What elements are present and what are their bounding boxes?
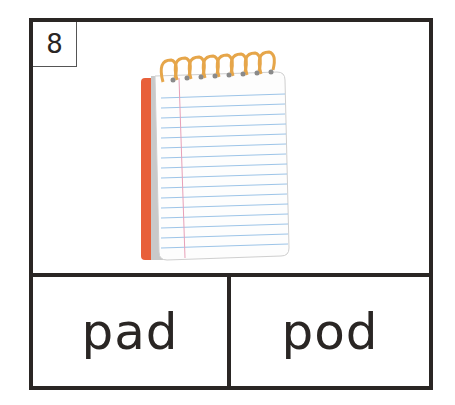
choice-pod[interactable]: pod — [231, 277, 429, 386]
choice-pad[interactable]: pad — [33, 277, 227, 386]
card-number: 8 — [33, 22, 77, 67]
notepad-icon — [137, 46, 297, 266]
word-card: 8 — [29, 18, 433, 390]
